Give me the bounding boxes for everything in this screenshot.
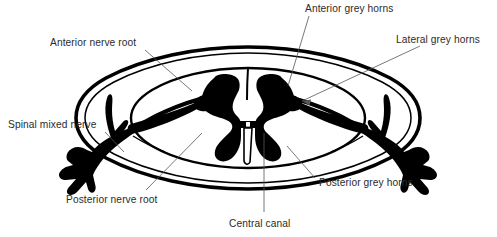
nerve-connection-left <box>128 100 204 133</box>
spinal-cord-diagram: Anterior grey horns Lateral grey horns A… <box>0 0 497 237</box>
nerve-connection-right <box>292 100 368 133</box>
label-posterior-nerve-root: Posterior nerve root <box>66 194 158 205</box>
label-central-canal: Central canal <box>229 218 290 229</box>
spinal-nerve-trunk-left <box>59 127 139 195</box>
anatomy-group <box>59 47 437 195</box>
labels-group: Anterior grey horns Lateral grey horns A… <box>8 3 480 229</box>
posterior-median-septum <box>244 128 252 164</box>
leader-posterior-grey-horns <box>287 146 315 178</box>
diagram-canvas: Anterior grey horns Lateral grey horns A… <box>0 0 497 237</box>
anterior-median-fissure <box>247 68 248 100</box>
label-posterior-grey-horns: Posterior grey horns <box>319 177 413 188</box>
label-lateral-grey-horns: Lateral grey horns <box>396 34 480 45</box>
central-canal-slit <box>246 122 250 127</box>
label-anterior-nerve-root: Anterior nerve root <box>50 37 136 48</box>
grey-matter-left-wing <box>202 74 241 161</box>
label-anterior-grey-horns: Anterior grey horns <box>305 3 394 14</box>
label-spinal-mixed-nerve: Spinal mixed nerve <box>8 119 97 130</box>
